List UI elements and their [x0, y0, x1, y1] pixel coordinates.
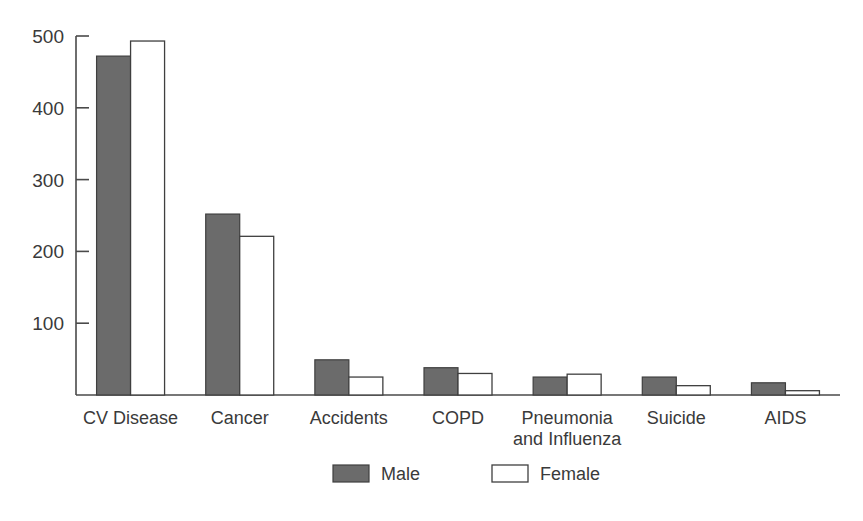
- category-label: CV Disease: [83, 408, 178, 428]
- bar-female: [567, 374, 601, 395]
- category-label: Accidents: [310, 408, 388, 428]
- y-axis-tick-label: 500: [32, 26, 64, 47]
- bars-area: [97, 41, 820, 395]
- bar-male: [751, 383, 785, 395]
- category-labels: CV DiseaseCancerAccidentsCOPDPneumoniaan…: [83, 408, 806, 449]
- chart-canvas: 100200300400500 CV DiseaseCancerAccident…: [0, 0, 863, 521]
- chart-legend: MaleFemale: [333, 464, 600, 484]
- bar-male: [642, 377, 676, 395]
- bar-male: [206, 214, 240, 395]
- bar-female: [785, 391, 819, 395]
- legend-label-female: Female: [540, 464, 600, 484]
- legend-swatch-male: [333, 465, 369, 482]
- y-axis-tick-label: 300: [32, 170, 64, 191]
- category-label: Suicide: [647, 408, 706, 428]
- bar-female: [240, 236, 274, 395]
- category-label: and Influenza: [513, 429, 622, 449]
- bar-female: [676, 386, 710, 395]
- legend-label-male: Male: [381, 464, 420, 484]
- bar-female: [349, 377, 383, 395]
- y-axis: 100200300400500: [32, 26, 89, 395]
- bar-male: [424, 368, 458, 395]
- bar-female: [131, 41, 165, 395]
- category-label: COPD: [432, 408, 484, 428]
- category-label: AIDS: [764, 408, 806, 428]
- category-label: Pneumonia: [522, 408, 614, 428]
- bar-female: [458, 373, 492, 395]
- legend-swatch-female: [492, 465, 528, 482]
- y-axis-tick-label: 400: [32, 98, 64, 119]
- bar-chart: 100200300400500 CV DiseaseCancerAccident…: [0, 0, 863, 521]
- y-axis-tick-label: 100: [32, 313, 64, 334]
- bar-male: [315, 360, 349, 395]
- y-axis-tick-label: 200: [32, 241, 64, 262]
- bar-male: [97, 56, 131, 395]
- bar-male: [533, 377, 567, 395]
- category-label: Cancer: [211, 408, 269, 428]
